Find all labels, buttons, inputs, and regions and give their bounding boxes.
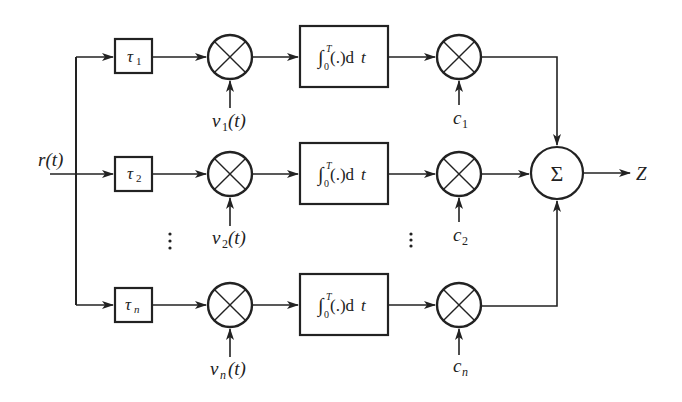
svg-text:2: 2	[136, 172, 142, 184]
branch-row-1	[115, 26, 557, 145]
coef-label-1: c 1	[453, 107, 468, 131]
svg-text:t: t	[361, 165, 367, 184]
sum-label: Σ	[551, 161, 564, 186]
ref-signal-label-n: v n (t)	[210, 358, 246, 382]
svg-text:(t): (t)	[228, 110, 246, 132]
svg-text:v: v	[212, 227, 221, 248]
svg-text:v: v	[212, 110, 221, 131]
multiplier-icon	[437, 152, 481, 196]
svg-text:n: n	[134, 303, 140, 315]
delay-block-2	[115, 157, 152, 191]
ellipsis-icon	[409, 232, 412, 247]
svg-text:0: 0	[324, 61, 329, 72]
input-label: r(t)	[38, 149, 63, 171]
integrator-label-1: ∫ T 0 (.)d t	[316, 43, 367, 72]
ellipsis-icon	[168, 232, 171, 249]
svg-text:t: t	[361, 296, 367, 315]
svg-text:n: n	[462, 365, 468, 379]
multiplier-icon	[208, 152, 252, 196]
multiplier-icon	[437, 283, 481, 327]
coef-label-n: c n	[453, 355, 468, 379]
multiplier-icon	[437, 35, 481, 79]
svg-text:v: v	[210, 358, 219, 379]
svg-text:(t): (t)	[228, 227, 246, 249]
delay-label-2: τ 2	[127, 164, 142, 184]
svg-text:c: c	[453, 355, 462, 376]
svg-text:(.)d: (.)d	[330, 165, 355, 184]
delay-block-1	[115, 39, 152, 73]
ref-signal-label-1: v 1 (t)	[212, 110, 246, 134]
svg-text:(.)d: (.)d	[330, 48, 355, 67]
svg-text:τ: τ	[127, 164, 134, 183]
summer-block	[531, 147, 630, 199]
svg-text:1: 1	[462, 117, 468, 131]
svg-text:c: c	[453, 224, 462, 245]
svg-text:τ: τ	[127, 47, 134, 66]
coef-label-2: c 2	[453, 224, 468, 248]
correlator-block-diagram: r(t) Z Σ τ 1 τ 2 τ n v 1 (t) v 2 (t) v n…	[0, 0, 682, 402]
delay-label-1: τ 1	[127, 47, 142, 67]
svg-text:c: c	[453, 107, 462, 128]
integrator-label-n: ∫ T 0 (.)d t	[316, 291, 367, 320]
svg-text:n: n	[220, 368, 226, 382]
multiplier-icon	[208, 35, 252, 79]
svg-text:(t): (t)	[228, 358, 246, 380]
svg-text:t: t	[361, 48, 367, 67]
branch-row-n	[115, 201, 557, 357]
svg-text:0: 0	[324, 178, 329, 189]
integrator-label-2: ∫ T 0 (.)d t	[316, 160, 367, 189]
svg-text:1: 1	[136, 55, 142, 67]
svg-text:(.)d: (.)d	[330, 296, 355, 315]
svg-text:τ: τ	[125, 295, 132, 314]
multiplier-icon	[208, 283, 252, 327]
svg-text:2: 2	[462, 234, 468, 248]
ref-signal-label-2: v 2 (t)	[212, 227, 246, 251]
svg-text:0: 0	[324, 309, 329, 320]
delay-label-n: τ n	[125, 295, 140, 315]
output-label: Z	[636, 163, 647, 184]
